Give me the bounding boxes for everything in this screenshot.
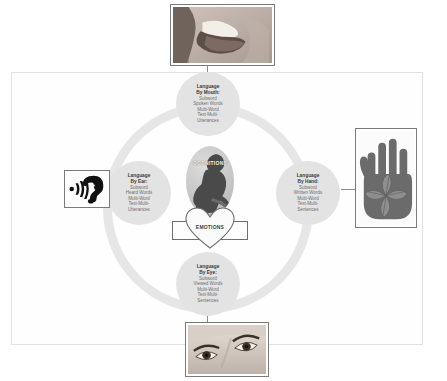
node-language-by-ear[interactable]: Language By Ear: Subword Heard Words Mul… [107,161,171,225]
photo-eye [185,322,269,377]
node-language-by-eye[interactable]: Language By Eye: Subword Viewed Words Mu… [176,252,240,316]
ear-soundwaves-icon [67,173,107,205]
node-line: Sentences [197,298,218,304]
hand-with-leaves-icon [358,131,414,225]
emotions-label: EMOTIONS [184,224,236,230]
mouth-tongue-photo [173,7,272,63]
node-language-by-mouth[interactable]: Language By Mouth: Subword Spoken Words … [176,72,240,136]
photo-ear [64,170,110,208]
node-line: Utterances [197,118,219,124]
photo-hand [355,128,417,228]
eyes-photo [188,325,266,374]
leader-line-hand [341,189,355,190]
node-line: Sentences [297,207,318,213]
node-language-by-hand[interactable]: Language By Hand: Subword Written Words … [276,161,340,225]
cognitions-label: COGNITIONS [186,160,234,166]
node-line: Utterances [128,207,150,213]
photo-mouth [170,4,275,66]
